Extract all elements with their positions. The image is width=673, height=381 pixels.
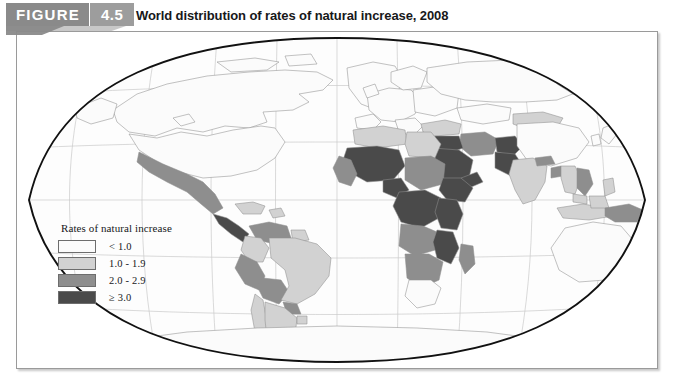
region-tasmania (603, 284, 617, 296)
figure-badge: FIGURE 4.5 (6, 3, 134, 26)
legend-label-lt1: < 1.0 (109, 241, 132, 252)
legend-label-1-19: 1.0 - 1.9 (109, 258, 146, 269)
legend-item: 2.0 - 2.9 (58, 273, 172, 288)
legend-swatch-2-29 (58, 274, 96, 287)
region-morocco-algeria (353, 126, 407, 148)
legend-label-ge3: ≥ 3.0 (109, 292, 132, 303)
region-kazakhstan (457, 104, 511, 124)
region-pacific-islands (647, 220, 657, 230)
region-malaysia (573, 194, 587, 204)
legend-item: ≥ 3.0 (58, 290, 172, 305)
map-frame: Rates of natural increase < 1.0 1.0 - 1.… (16, 31, 658, 369)
region-korea (591, 134, 601, 146)
region-nepal-bhutan (535, 156, 555, 166)
legend-title: Rates of natural increase (61, 222, 172, 234)
map-legend: Rates of natural increase < 1.0 1.0 - 1.… (58, 222, 172, 307)
region-uruguay (297, 316, 307, 324)
world-map (17, 32, 657, 368)
figure-header: FIGURE 4.5 World distribution of rates o… (0, 0, 673, 32)
legend-label-2-29: 2.0 - 2.9 (109, 275, 146, 286)
region-russia (427, 60, 583, 102)
legend-swatch-ge3 (58, 291, 96, 304)
region-new-zealand (643, 282, 657, 304)
figure-title: World distribution of rates of natural i… (136, 4, 448, 26)
legend-item: < 1.0 (58, 239, 172, 254)
legend-swatch-lt1 (58, 240, 96, 253)
legend-swatch-1-19 (58, 257, 96, 270)
legend-item: 1.0 - 1.9 (58, 256, 172, 271)
figure-badge-number: 4.5 (90, 3, 134, 26)
figure-badge-label: FIGURE (6, 3, 89, 26)
